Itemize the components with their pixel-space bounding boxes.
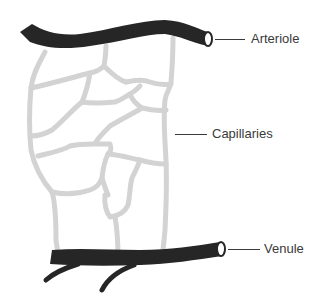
- venule-label: Venule: [264, 241, 304, 256]
- arteriole-label: Arteriole: [251, 31, 299, 46]
- capillaries-leader-line: [175, 134, 207, 135]
- capillaries-label: Capillaries: [212, 126, 273, 141]
- venule-branch-right: [102, 265, 134, 290]
- venule-vessel: [46, 242, 225, 290]
- venule-branch-left: [46, 264, 78, 280]
- arteriole-vessel: [20, 20, 212, 48]
- capillary-network: [30, 38, 174, 258]
- arteriole-leader-line: [215, 39, 245, 40]
- venule-leader-line: [228, 249, 260, 250]
